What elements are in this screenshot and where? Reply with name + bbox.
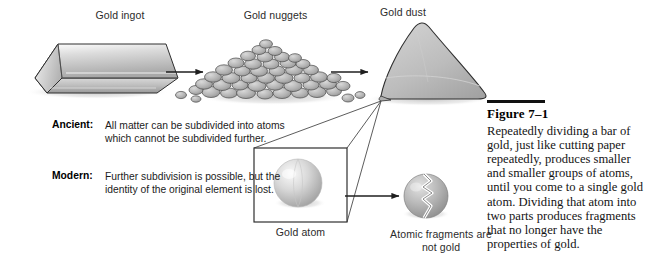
- label-atomic-fragments: Atomic fragments are not gold: [385, 228, 497, 253]
- caption-rule-divider: [487, 100, 545, 103]
- statement-term-ancient: Ancient:: [52, 119, 93, 130]
- statement-term-modern: Modern:: [52, 170, 93, 181]
- statement-text-modern: Further subdivision is possible, but the…: [105, 170, 297, 196]
- figure-caption: Figure 7–1 Repeatedly dividing a bar of …: [487, 100, 645, 251]
- label-gold-ingot: Gold ingot: [65, 9, 175, 21]
- label-gold-atom: Gold atom: [248, 226, 353, 238]
- statement-text-ancient: All matter can be subdivided into atoms …: [105, 119, 290, 145]
- caption-body: Repeatedly dividing a bar of gold, just …: [487, 124, 645, 252]
- atomic-fragments-graphic: [402, 174, 450, 220]
- label-gold-dust: Gold dust: [348, 6, 458, 18]
- label-gold-nuggets: Gold nuggets: [218, 9, 333, 21]
- figure-illustration: Gold ingot Gold nuggets Gold dust Gold a…: [0, 0, 649, 271]
- gold-dust-graphic: [366, 23, 490, 106]
- gold-ingot-graphic: [25, 44, 178, 99]
- caption-heading: Figure 7–1: [487, 106, 645, 122]
